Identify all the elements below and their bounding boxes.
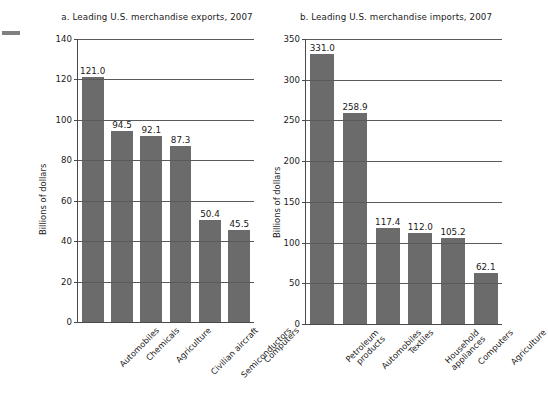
bar-group-exports: 121.094.592.187.350.445.5 bbox=[78, 39, 254, 322]
bar-cell: 121.0 bbox=[78, 39, 107, 322]
bar: 105.2 bbox=[441, 238, 465, 324]
y-axis-tick bbox=[74, 120, 78, 121]
crop-mark bbox=[2, 31, 20, 35]
bar: 258.9 bbox=[343, 113, 367, 324]
bar-cell: 45.5 bbox=[225, 39, 254, 322]
gridline bbox=[78, 282, 254, 283]
chart-title-exports: a. Leading U.S. merchandise exports, 200… bbox=[28, 12, 260, 22]
y-axis-tick-label: 40 bbox=[61, 236, 72, 246]
bar-value-label: 50.4 bbox=[200, 209, 220, 219]
y-axis-tick bbox=[74, 39, 78, 40]
gridline bbox=[306, 80, 502, 81]
bar-value-label: 45.5 bbox=[230, 219, 250, 229]
y-axis-label-exports: Billions of dollars bbox=[38, 164, 48, 235]
y-axis-tick bbox=[74, 241, 78, 242]
gridline bbox=[306, 243, 502, 244]
y-axis-tick bbox=[302, 283, 306, 284]
bar-cell: 87.3 bbox=[166, 39, 195, 322]
bar-cell: 94.5 bbox=[107, 39, 136, 322]
bar-value-label: 62.1 bbox=[476, 262, 496, 272]
y-axis-tick-label: 140 bbox=[56, 34, 72, 44]
bar-value-label: 258.9 bbox=[342, 102, 367, 112]
y-axis-tick-label: 300 bbox=[284, 75, 300, 85]
bar-group-imports: 331.0258.9117.4112.0105.262.1 bbox=[306, 39, 502, 324]
bar: 45.5 bbox=[228, 230, 250, 322]
gridline bbox=[306, 283, 502, 284]
gridline bbox=[306, 120, 502, 121]
bar-value-label: 92.1 bbox=[142, 125, 162, 135]
y-axis-tick bbox=[302, 120, 306, 121]
y-axis-tick bbox=[302, 161, 306, 162]
y-axis-tick bbox=[74, 322, 78, 323]
chart-panel-imports: b. Leading U.S. merchandise imports, 200… bbox=[262, 0, 512, 410]
gridline bbox=[78, 201, 254, 202]
chart-panel-exports: a. Leading U.S. merchandise exports, 200… bbox=[28, 0, 260, 410]
y-axis-label-imports: Billions of dollars bbox=[272, 167, 282, 238]
y-axis-tick bbox=[302, 202, 306, 203]
y-axis-tick-label: 120 bbox=[56, 74, 72, 84]
gridline bbox=[78, 120, 254, 121]
y-axis-tick-label: 50 bbox=[289, 278, 300, 288]
bar-cell: 258.9 bbox=[339, 39, 372, 324]
bar: 92.1 bbox=[140, 136, 162, 322]
x-axis-labels-imports: Petroleum productsAutomobilesTextilesHou… bbox=[306, 324, 502, 410]
y-axis-tick bbox=[302, 80, 306, 81]
bar: 87.3 bbox=[170, 146, 192, 322]
bar-value-label: 121.0 bbox=[80, 66, 105, 76]
bar: 62.1 bbox=[474, 273, 498, 324]
bar-cell: 105.2 bbox=[437, 39, 470, 324]
plot-area-exports: 121.094.592.187.350.445.5 AutomobilesChe… bbox=[77, 39, 254, 323]
gridline bbox=[78, 160, 254, 161]
y-axis-tick-label: 100 bbox=[284, 238, 300, 248]
bar-cell: 50.4 bbox=[195, 39, 224, 322]
y-axis-tick bbox=[74, 201, 78, 202]
y-axis-tick-label: 80 bbox=[61, 155, 72, 165]
bar-value-label: 87.3 bbox=[171, 135, 191, 145]
plot-area-imports: 331.0258.9117.4112.0105.262.1 Petroleum … bbox=[305, 39, 502, 325]
y-axis-tick bbox=[302, 39, 306, 40]
chart-title-imports: b. Leading U.S. merchandise imports, 200… bbox=[262, 12, 512, 22]
bar-cell: 117.4 bbox=[371, 39, 404, 324]
gridline bbox=[306, 202, 502, 203]
y-axis-tick-label: 200 bbox=[284, 156, 300, 166]
y-axis-tick-label: 20 bbox=[61, 277, 72, 287]
bar-value-label: 117.4 bbox=[375, 217, 400, 227]
gridline bbox=[78, 39, 254, 40]
bar-cell: 112.0 bbox=[404, 39, 437, 324]
bar: 112.0 bbox=[408, 233, 432, 324]
gridline bbox=[78, 241, 254, 242]
y-axis-tick-label: 100 bbox=[56, 115, 72, 125]
bar-cell: 331.0 bbox=[306, 39, 339, 324]
bar-cell: 62.1 bbox=[469, 39, 502, 324]
gridline bbox=[306, 39, 502, 40]
gridline bbox=[78, 79, 254, 80]
y-axis-tick bbox=[302, 243, 306, 244]
x-axis-labels-exports: AutomobilesChemicalsAgricultureCivilian … bbox=[78, 322, 254, 408]
bar-value-label: 112.0 bbox=[408, 222, 433, 232]
bar-value-label: 331.0 bbox=[310, 43, 335, 53]
bar: 50.4 bbox=[199, 220, 221, 322]
y-axis-tick bbox=[74, 79, 78, 80]
y-axis-tick-label: 150 bbox=[284, 197, 300, 207]
y-axis-tick-label: 250 bbox=[284, 115, 300, 125]
gridline bbox=[306, 161, 502, 162]
bar-value-label: 94.5 bbox=[112, 120, 132, 130]
y-axis-tick-label: 0 bbox=[67, 317, 72, 327]
y-axis-tick bbox=[74, 282, 78, 283]
y-axis-tick bbox=[74, 160, 78, 161]
y-axis-tick-label: 60 bbox=[61, 196, 72, 206]
bar: 121.0 bbox=[82, 77, 104, 322]
bar-cell: 92.1 bbox=[137, 39, 166, 322]
y-axis-tick-label: 0 bbox=[295, 319, 300, 329]
y-axis-tick-label: 350 bbox=[284, 34, 300, 44]
y-axis-tick bbox=[302, 324, 306, 325]
bar-value-label: 105.2 bbox=[440, 227, 465, 237]
